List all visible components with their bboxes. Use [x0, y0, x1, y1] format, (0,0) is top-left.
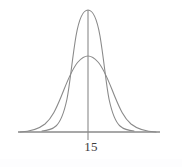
x-axis-tick-label-mean: 15: [0, 140, 182, 153]
bottom-edge-band: [0, 159, 182, 167]
normal-curves-figure: 15: [0, 0, 182, 167]
